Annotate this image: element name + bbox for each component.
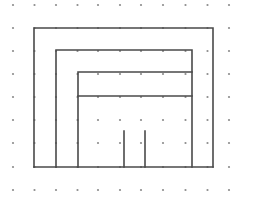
grid-dot-r3-c8 xyxy=(184,73,186,75)
grid-dot-r5-c0 xyxy=(12,119,14,121)
grid-dot-r0-c10 xyxy=(228,4,230,6)
grid-dot-r5-c10 xyxy=(228,119,230,121)
grid-dot-r7-c10 xyxy=(228,166,230,168)
grid-dot-r2-c9 xyxy=(206,50,208,52)
grid-dot-r3-c5 xyxy=(119,73,121,75)
grid-dot-r0-c1 xyxy=(33,4,35,6)
grid-dot-r5-c9 xyxy=(206,119,208,121)
grid-dot-r6-c0 xyxy=(12,142,14,144)
grid-dot-r8-c9 xyxy=(206,189,208,191)
grid-dot-r0-c2 xyxy=(55,4,57,6)
grid-dot-r3-c10 xyxy=(228,73,230,75)
dot-grid-figure xyxy=(0,0,266,205)
grid-dot-r2-c10 xyxy=(228,50,230,52)
grid-dot-r6-c9 xyxy=(206,142,208,144)
figure-canvas xyxy=(0,0,266,205)
grid-dot-r6-c4 xyxy=(97,142,99,144)
grid-dot-r3-c9 xyxy=(206,73,208,75)
grid-dot-r8-c0 xyxy=(12,189,14,191)
grid-dot-r0-c3 xyxy=(76,4,78,6)
grid-dot-r3-c0 xyxy=(12,73,14,75)
grid-dot-r3-c6 xyxy=(140,73,142,75)
grid-dot-r8-c6 xyxy=(140,189,142,191)
grid-dot-r6-c5 xyxy=(119,142,121,144)
grid-dot-r6-c7 xyxy=(162,142,164,144)
grid-dot-r3-c4 xyxy=(97,73,99,75)
grid-dot-r1-c0 xyxy=(12,27,14,29)
grid-dot-r0-c8 xyxy=(184,4,186,6)
grid-dot-r8-c4 xyxy=(97,189,99,191)
grid-dot-r4-c10 xyxy=(228,96,230,98)
grid-dot-r0-c0 xyxy=(12,4,14,6)
dot-grid xyxy=(12,4,230,191)
grid-dot-r3-c7 xyxy=(162,73,164,75)
grid-dot-r8-c7 xyxy=(162,189,164,191)
grid-dot-r6-c8 xyxy=(184,142,186,144)
grid-dot-r0-c5 xyxy=(119,4,121,6)
grid-dot-r0-c6 xyxy=(140,4,142,6)
grid-dot-r5-c5 xyxy=(119,119,121,121)
grid-dot-r5-c4 xyxy=(97,119,99,121)
grid-dot-r8-c8 xyxy=(184,189,186,191)
grid-dot-r0-c9 xyxy=(206,4,208,6)
grid-dot-r1-c10 xyxy=(228,27,230,29)
grid-dot-r8-c3 xyxy=(76,189,78,191)
grid-dot-r0-c4 xyxy=(97,4,99,6)
grid-dot-r6-c6 xyxy=(140,142,142,144)
grid-dot-r7-c0 xyxy=(12,166,14,168)
grid-dot-r2-c0 xyxy=(12,50,14,52)
grid-dot-r5-c6 xyxy=(140,119,142,121)
grid-dot-r5-c7 xyxy=(162,119,164,121)
grid-dot-r0-c7 xyxy=(162,4,164,6)
grid-dot-r5-c8 xyxy=(184,119,186,121)
grid-dot-r4-c0 xyxy=(12,96,14,98)
grid-dot-r6-c10 xyxy=(228,142,230,144)
grid-dot-r8-c10 xyxy=(228,189,230,191)
grid-dot-r4-c9 xyxy=(206,96,208,98)
third-rectangle xyxy=(78,72,192,167)
grid-dot-r8-c2 xyxy=(55,189,57,191)
grid-dot-r8-c5 xyxy=(119,189,121,191)
grid-dot-r8-c1 xyxy=(33,189,35,191)
